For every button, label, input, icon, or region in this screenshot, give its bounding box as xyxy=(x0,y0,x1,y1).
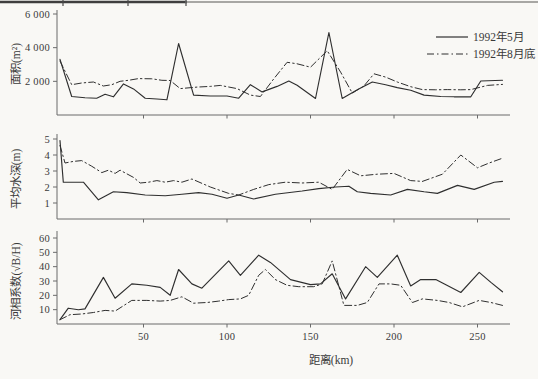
panel-depth: 12345 xyxy=(44,134,510,223)
y-tick-label: 4 xyxy=(44,150,50,161)
y-tick-label: 60 xyxy=(39,233,50,244)
series-line-solid xyxy=(60,141,503,200)
series-line-solid xyxy=(60,255,503,320)
series-line-dashed xyxy=(60,261,503,320)
y-axis-title-depth: 平均水深(m) xyxy=(9,149,23,210)
panel-coefficient: 10203040506050100150200250 xyxy=(39,231,510,342)
y-tick-label: 2 000 xyxy=(25,76,50,87)
top-border-decor xyxy=(0,0,538,6)
x-tick-label: 150 xyxy=(302,331,319,342)
scanned-figure-page: 2 0004 0006 000 12345 102030405060501001… xyxy=(0,0,538,379)
x-tick-label: 200 xyxy=(386,331,403,342)
y-tick-label: 30 xyxy=(39,276,50,287)
legend-label-solid: 1992年5月 xyxy=(473,30,524,43)
x-tick-label: 50 xyxy=(138,331,149,342)
y-tick-label: 10 xyxy=(39,304,50,315)
y-tick-label: 3 xyxy=(44,166,50,177)
three-panel-line-chart: 2 0004 0006 000 12345 102030405060501001… xyxy=(0,0,538,379)
y-tick-label: 2 xyxy=(44,182,50,193)
y-tick-label: 6 000 xyxy=(25,9,50,20)
series-line-dashed xyxy=(60,51,503,97)
y-axis-title-coefficient: 河相系数(√B/H) xyxy=(9,242,23,319)
y-tick-label: 4 000 xyxy=(25,42,50,53)
y-tick-label: 5 xyxy=(44,134,50,145)
axis-frame xyxy=(57,134,510,219)
series-line-dashed xyxy=(60,145,503,195)
x-axis-title: 距离(km) xyxy=(309,353,354,367)
legend-label-dashed: 1992年8月底 xyxy=(473,47,536,60)
axis-frame xyxy=(57,231,510,324)
y-axis-title-area: 面积(m²) xyxy=(10,43,23,85)
x-tick-label: 100 xyxy=(219,331,236,342)
y-tick-label: 50 xyxy=(39,247,50,258)
panel-area: 2 0004 0006 000 xyxy=(25,9,510,119)
axis-frame xyxy=(57,10,510,115)
x-tick-label: 250 xyxy=(469,331,486,342)
y-tick-label: 20 xyxy=(39,290,50,301)
y-tick-label: 1 xyxy=(44,198,50,209)
legend: 1992年5月 1992年8月底 xyxy=(427,30,536,60)
y-tick-label: 40 xyxy=(39,261,50,272)
